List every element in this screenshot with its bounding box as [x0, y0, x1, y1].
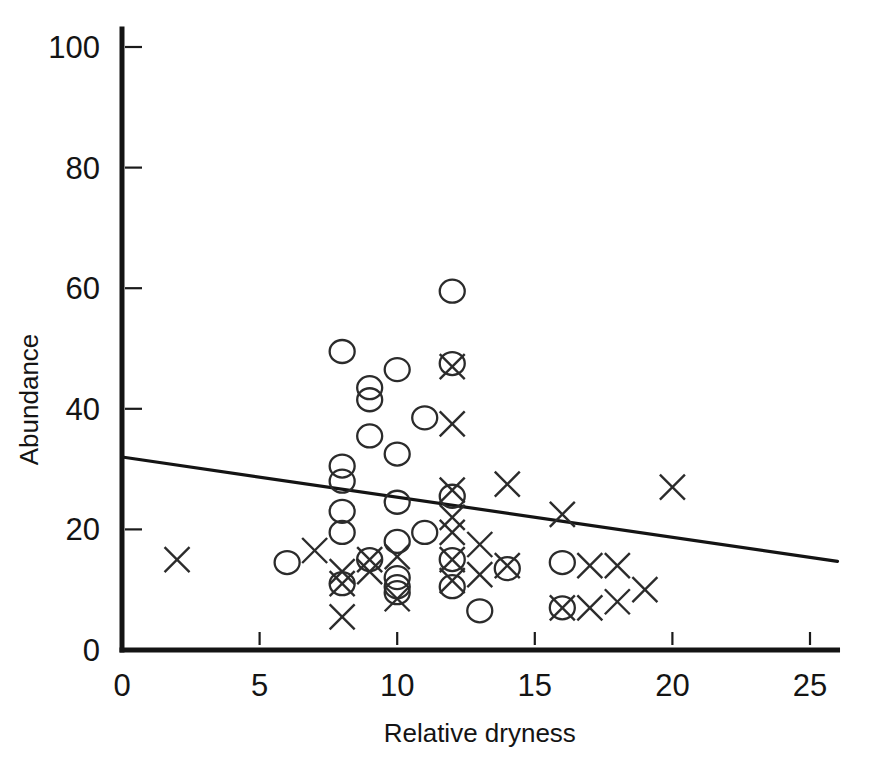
data-point-cross: [495, 472, 520, 497]
y-tick-label: 40: [66, 392, 100, 427]
data-point-cross: [440, 547, 465, 572]
data-point-circle: [275, 551, 300, 574]
data-point-circle: [330, 340, 355, 363]
data-point-circle: [495, 557, 520, 580]
data-point-circle: [412, 521, 437, 544]
axes: [122, 29, 838, 650]
data-point-circle: [440, 575, 465, 598]
data-point-cross: [550, 502, 575, 527]
data-point-cross: [357, 559, 382, 584]
y-tick-label: 0: [83, 633, 100, 668]
data-point-circle: [385, 443, 410, 466]
y-tick-label: 80: [66, 151, 100, 186]
data-point-cross: [330, 571, 355, 596]
data-point-cross: [605, 589, 630, 614]
data-point-cross: [165, 547, 190, 572]
data-point-cross: [467, 532, 492, 557]
data-point-circle: [357, 424, 382, 447]
x-tick-label: 10: [380, 668, 414, 703]
data-point-circle: [550, 551, 575, 574]
data-point-circle: [467, 599, 492, 622]
x-tick-label: 15: [518, 668, 552, 703]
axis-labels: 0204060801000510152025Relative drynessAb…: [14, 30, 827, 748]
y-tick-label: 60: [66, 271, 100, 306]
scatter-chart: 0204060801000510152025Relative drynessAb…: [0, 0, 876, 759]
data-point-cross: [467, 562, 492, 587]
data-point-cross: [440, 411, 465, 436]
data-point-circle: [330, 500, 355, 523]
data-point-cross: [605, 553, 630, 578]
data-point-circle: [412, 406, 437, 429]
data-point-cross: [357, 547, 382, 572]
x-axis-title: Relative dryness: [384, 718, 576, 748]
data-point-cross: [660, 475, 685, 500]
x-tick-label: 20: [655, 668, 689, 703]
data-point-cross: [440, 520, 465, 545]
data-point-cross: [302, 538, 327, 563]
data-point-cross: [577, 553, 602, 578]
plot-area: 0204060801000510152025Relative drynessAb…: [0, 0, 876, 759]
data-point-circle: [440, 280, 465, 303]
data-point-cross: [550, 595, 575, 620]
data-markers: [165, 280, 685, 630]
x-tick-label: 5: [251, 668, 268, 703]
data-point-cross: [577, 595, 602, 620]
data-point-circle: [385, 581, 410, 604]
data-point-circle: [440, 352, 465, 375]
x-tick-label: 0: [113, 668, 130, 703]
data-point-circle: [385, 491, 410, 514]
data-point-circle: [330, 521, 355, 544]
y-axis-title: Abundance: [14, 334, 44, 466]
data-point-cross: [330, 559, 355, 584]
x-tick-label: 25: [793, 668, 827, 703]
data-point-circle: [385, 358, 410, 381]
data-point-cross: [440, 478, 465, 503]
data-point-cross: [330, 604, 355, 629]
data-point-cross: [632, 577, 657, 602]
data-point-circle: [385, 530, 410, 553]
y-tick-label: 100: [48, 30, 100, 65]
y-tick-label: 20: [66, 512, 100, 547]
